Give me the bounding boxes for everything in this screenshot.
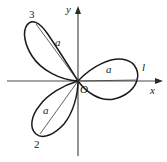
y-axis-arrow-icon	[75, 6, 81, 14]
radius-line-upper	[36, 24, 78, 81]
radius-lines-group	[36, 24, 137, 134]
rose-curve-figure: 3 2 a a a l x y O	[0, 0, 167, 162]
polar-axis-label: l	[142, 62, 145, 73]
radius-label-a-right: a	[106, 64, 112, 75]
petal-lower-left-curve	[32, 81, 78, 136]
radius-label-a-upper: a	[55, 37, 61, 48]
x-axis-arrow-icon	[155, 78, 163, 84]
petal-upper-left-curve	[25, 22, 78, 81]
petal-label-3: 3	[29, 9, 35, 20]
petal-label-2: 2	[34, 139, 40, 150]
rose-petals-group	[25, 22, 138, 137]
y-axis-label: y	[66, 4, 71, 15]
rose-curve-drawing	[0, 0, 167, 162]
x-axis-label: x	[150, 85, 155, 96]
radius-label-a-lower: a	[43, 105, 49, 116]
origin-label: O	[80, 84, 88, 95]
